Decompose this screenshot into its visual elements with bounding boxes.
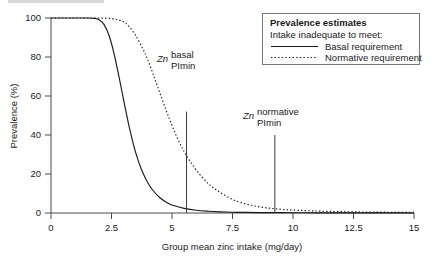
x-tick-label-7-5: 7.5 — [226, 222, 239, 233]
annotation-zn-basal-plmin: Zn basal PImin — [156, 49, 195, 213]
annotation-line2-basal: PImin — [171, 60, 195, 71]
annotation-zn-italic-normative: Zn — [242, 110, 254, 121]
x-axis-title: Group mean zinc intake (mg/day) — [162, 241, 302, 252]
y-tick-label-60: 60 — [30, 90, 41, 101]
legend-label-basal-requirement: Basal requirement — [325, 41, 402, 52]
y-tick-label-40: 40 — [30, 129, 41, 140]
x-tick-label-15: 15 — [409, 222, 420, 233]
x-tick-label-0: 0 — [48, 222, 53, 233]
y-tick-label-100: 100 — [25, 12, 41, 23]
prevalence-zinc-intake-chart: 0 20 40 60 80 100 0 2.5 5 7.5 10 12.5 15… — [0, 0, 432, 263]
annotation-zn-normative-plmin: Zn normative PImin — [242, 106, 299, 213]
y-tick-label-80: 80 — [30, 51, 41, 62]
figure-container: 0 20 40 60 80 100 0 2.5 5 7.5 10 12.5 15… — [0, 0, 432, 263]
y-axis-ticks: 0 20 40 60 80 100 — [25, 12, 51, 218]
annotation-line1-normative: normative — [257, 106, 299, 117]
legend-subtitle: Intake inadequate to meet: — [270, 29, 383, 40]
legend: Prevalence estimates Intake inadequate t… — [263, 14, 422, 65]
x-tick-label-2-5: 2.5 — [105, 222, 118, 233]
x-tick-label-10: 10 — [288, 222, 299, 233]
legend-title: Prevalence estimates — [270, 17, 367, 28]
y-axis-title: Prevalence (%) — [8, 84, 19, 149]
y-tick-label-20: 20 — [30, 168, 41, 179]
scan-artifact — [8, 0, 104, 3]
y-tick-label-0: 0 — [36, 207, 41, 218]
x-tick-label-12-5: 12.5 — [344, 222, 363, 233]
annotation-line2-normative: PImin — [257, 117, 281, 128]
x-tick-label-5: 5 — [169, 222, 174, 233]
annotation-line1-basal: basal — [171, 49, 194, 60]
legend-label-normative-requirement: Normative requirement — [325, 52, 422, 63]
annotation-zn-italic-basal: Zn — [156, 53, 168, 64]
x-axis-ticks: 0 2.5 5 7.5 10 12.5 15 — [48, 213, 419, 233]
